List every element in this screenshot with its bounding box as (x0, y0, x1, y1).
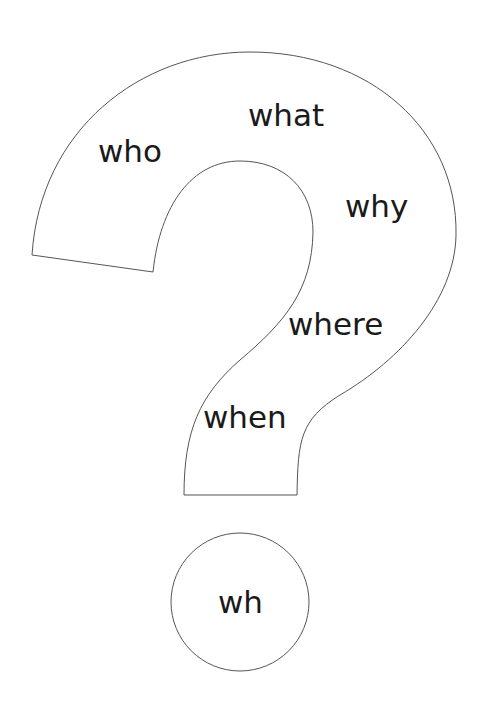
question-mark-diagram: who what why where when wh (0, 0, 484, 702)
word-what: what (248, 97, 324, 133)
word-where: where (288, 306, 383, 342)
word-when: when (203, 399, 287, 435)
word-wh: wh (218, 584, 263, 620)
word-who: who (98, 133, 162, 169)
word-why: why (345, 188, 408, 224)
